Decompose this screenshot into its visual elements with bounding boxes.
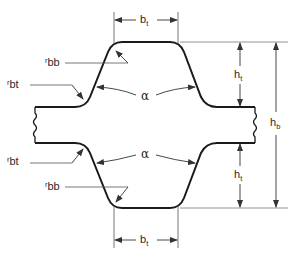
rbb-top-leader-diag	[116, 51, 128, 63]
ht-bottom-label: ht	[234, 168, 243, 183]
bt-top-label: bt	[140, 13, 149, 28]
rbt-bottom-leader-diag	[72, 149, 83, 163]
alpha-bottom-arc-right	[156, 155, 195, 163]
rbt-top-leader-diag	[72, 85, 83, 99]
hb-label: hb	[270, 116, 280, 131]
ht-top-label: ht	[234, 68, 243, 83]
bt-bottom-label: bt	[140, 233, 149, 248]
alpha-top-arc-left	[97, 87, 136, 95]
alpha-top-label: α	[141, 89, 149, 103]
bead-profile-diagram: bt bt rbb rbt α rbt α rbb ht h	[0, 0, 302, 260]
alpha-bottom-arc-left	[97, 155, 136, 163]
rbt-top-label: rbt	[7, 78, 19, 90]
rbb-bottom-leader-diag	[116, 187, 128, 202]
rbb-top-label: rbb	[45, 56, 60, 68]
right-break-line	[254, 107, 257, 143]
rbt-bottom-label: rbt	[7, 155, 19, 167]
alpha-top-arc-right	[156, 87, 195, 95]
alpha-bottom-label: α	[141, 147, 149, 161]
rbb-bottom-label: rbb	[45, 180, 60, 192]
left-break-line	[34, 107, 37, 143]
